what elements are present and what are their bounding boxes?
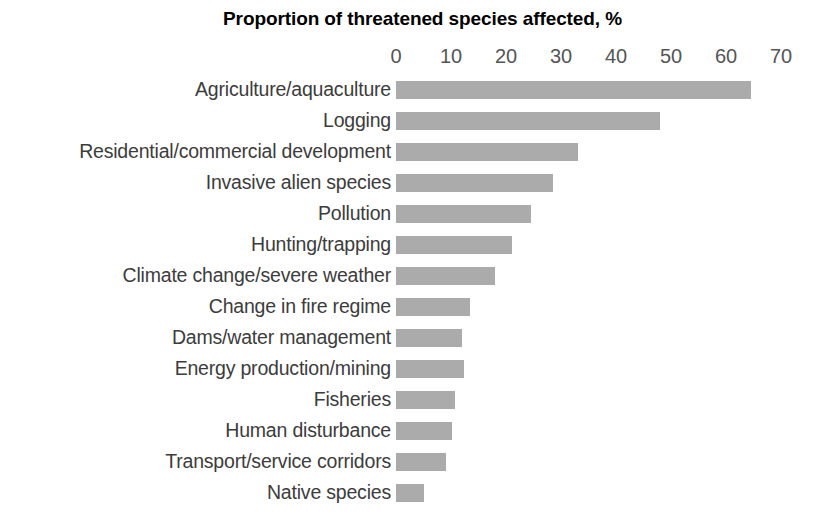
category-label: Energy production/mining — [175, 355, 391, 386]
x-tick-label: 60 — [715, 44, 737, 68]
x-tick-label: 20 — [495, 44, 517, 68]
bar-track — [396, 200, 827, 231]
chart-row: Fisheries — [0, 386, 827, 417]
category-label: Climate change/severe weather — [123, 262, 391, 293]
bar — [396, 267, 495, 285]
chart-title: Proportion of threatened species affecte… — [0, 8, 827, 30]
x-tick-label: 40 — [605, 44, 627, 68]
category-label: Pollution — [318, 200, 391, 231]
bar — [396, 298, 470, 316]
chart-row: Residential/commercial development — [0, 138, 827, 169]
chart-row: Invasive alien species — [0, 169, 827, 200]
chart-row: Hunting/trapping — [0, 231, 827, 262]
bar-track — [396, 293, 827, 324]
category-label: Dams/water management — [172, 324, 391, 355]
bar — [396, 205, 531, 223]
x-tick-label: 70 — [770, 44, 792, 68]
chart-row: Dams/water management — [0, 324, 827, 355]
category-label: Human disturbance — [225, 417, 391, 448]
bar — [396, 329, 462, 347]
bar — [396, 360, 464, 378]
bar-track — [396, 386, 827, 417]
chart-row: Human disturbance — [0, 417, 827, 448]
bar — [396, 236, 512, 254]
bar-track — [396, 76, 827, 107]
x-tick-label: 50 — [660, 44, 682, 68]
chart-row: Change in fire regime — [0, 293, 827, 324]
category-label: Hunting/trapping — [251, 231, 391, 262]
chart-rows: Agriculture/aquacultureLoggingResidentia… — [0, 76, 827, 510]
bar — [396, 484, 424, 502]
bar-track — [396, 355, 827, 386]
x-tick-label: 0 — [390, 44, 401, 68]
category-label: Native species — [267, 479, 391, 510]
x-axis-tick-labels: 010203040506070 — [0, 44, 827, 70]
bar-track — [396, 479, 827, 510]
bar-track — [396, 324, 827, 355]
chart-row: Native species — [0, 479, 827, 510]
bar — [396, 391, 455, 409]
x-tick-label: 30 — [550, 44, 572, 68]
chart-row: Logging — [0, 107, 827, 138]
category-label: Fisheries — [314, 386, 391, 417]
category-label: Logging — [323, 107, 391, 138]
bar-track — [396, 448, 827, 479]
bar-track — [396, 107, 827, 138]
chart-row: Transport/service corridors — [0, 448, 827, 479]
bar — [396, 174, 553, 192]
bar-track — [396, 417, 827, 448]
category-label: Agriculture/aquaculture — [195, 76, 391, 107]
bar — [396, 453, 446, 471]
category-label: Invasive alien species — [206, 169, 391, 200]
bar — [396, 81, 751, 99]
category-label: Residential/commercial development — [79, 138, 391, 169]
bar — [396, 112, 660, 130]
chart-row: Climate change/severe weather — [0, 262, 827, 293]
x-tick-label: 10 — [440, 44, 462, 68]
category-label: Change in fire regime — [209, 293, 391, 324]
bar-chart-figure: Proportion of threatened species affecte… — [0, 0, 827, 528]
bar-track — [396, 262, 827, 293]
bar-track — [396, 231, 827, 262]
category-label: Transport/service corridors — [165, 448, 391, 479]
chart-row: Pollution — [0, 200, 827, 231]
chart-row: Energy production/mining — [0, 355, 827, 386]
bar — [396, 422, 452, 440]
bar-track — [396, 138, 827, 169]
bar — [396, 143, 578, 161]
bar-track — [396, 169, 827, 200]
chart-row: Agriculture/aquaculture — [0, 76, 827, 107]
